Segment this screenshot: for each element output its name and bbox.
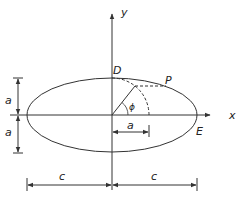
- x-axis-label: x: [228, 109, 236, 122]
- dim-lower-a-label: a: [5, 126, 12, 139]
- dim-right-c-label: c: [151, 170, 157, 183]
- y-axis-label: y: [120, 6, 128, 19]
- point-p-label: P: [165, 74, 172, 87]
- point-d-label: D: [113, 64, 121, 77]
- dim-left-c-label: c: [59, 170, 65, 183]
- point-e-label: E: [196, 125, 203, 138]
- angle-phi-label: ϕ: [129, 102, 135, 112]
- dim-upper-a-label: a: [5, 94, 12, 107]
- angle-arc: [122, 103, 128, 116]
- ellipse-diagram: y x D P E ϕ a a a c c: [0, 0, 241, 198]
- dim-radius-a-label: a: [127, 119, 134, 132]
